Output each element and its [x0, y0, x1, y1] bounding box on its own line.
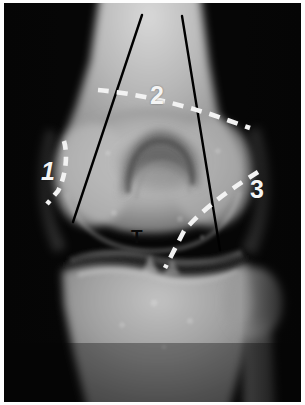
annotation-label-3: 3 — [250, 177, 264, 202]
annotation-label-1: 1 — [41, 159, 55, 184]
annotation-label-tibia: T — [131, 227, 143, 246]
xray-image-frame: 1 2 3 T — [4, 3, 301, 402]
annotation-label-2: 2 — [150, 83, 164, 108]
radiograph-figure: 1 2 3 T — [0, 0, 305, 405]
